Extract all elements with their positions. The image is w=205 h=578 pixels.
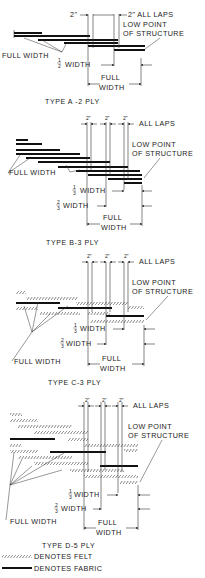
lap-label: 2"	[70, 10, 77, 19]
low-point-label: LOW POINT	[132, 140, 176, 149]
fraction-denominator: 3	[69, 494, 72, 500]
structure-label: OF STRUCTURE	[132, 149, 193, 158]
legend-fabric-label: DENOTES FABRIC	[34, 564, 102, 573]
two-thirds-width-label: WIDTH	[66, 339, 92, 348]
type-a-diagram: 2" 2" ALL LAPS LOW POINT OF STRUCTURE FU…	[2, 10, 184, 105]
all-laps-label: ALL LAPS	[133, 401, 169, 410]
full-width-label: FULL WIDTH	[9, 168, 56, 177]
full-width-label: FULL WIDTH	[14, 357, 61, 366]
lap-label: 2"	[105, 253, 110, 259]
legend-felt-label: DENOTES FELT	[34, 552, 93, 561]
fraction-denominator: 2	[58, 63, 61, 69]
fraction-denominator: 3	[74, 328, 77, 334]
type-b-title: TYPE B-3 PLY	[46, 239, 99, 246]
lap-label: 2"	[105, 115, 110, 121]
all-laps-label: 2" ALL LAPS	[128, 10, 173, 19]
lap-label: 2"	[85, 397, 90, 403]
full-width-dim-2: WIDTH	[96, 528, 122, 537]
lap-label: 2"	[124, 253, 129, 259]
lap-label: 2"	[86, 115, 91, 121]
lap-label: 2"	[102, 397, 107, 403]
full-width-dim-2: WIDTH	[100, 364, 126, 373]
low-point-label: LOW POINT	[123, 20, 167, 29]
full-width-label: FULL WIDTH	[2, 51, 49, 60]
third-width-label: WIDTH	[80, 324, 106, 333]
third-width-label: WIDTH	[74, 490, 100, 499]
low-point-label: LOW POINT	[132, 278, 176, 287]
full-width-dim-2: WIDTH	[101, 223, 127, 232]
fraction-denominator: 3	[73, 190, 76, 196]
full-width-dim-1: FULL	[102, 354, 121, 363]
third-width-label: WIDTH	[80, 186, 106, 195]
full-width-dim-1: FULL	[103, 213, 122, 222]
lap-label: 2"	[123, 115, 128, 121]
roofing-ply-diagram: 2" 2" ALL LAPS LOW POINT OF STRUCTURE FU…	[0, 0, 205, 578]
type-c-diagram: 2" 2" 2" ALL LAPS LOW POINT OF STRUCTURE…	[12, 253, 193, 386]
fraction-denominator: 3	[55, 508, 58, 514]
all-laps-label: ALL LAPS	[139, 119, 175, 128]
full-width-dim-2: WIDTH	[99, 83, 125, 92]
two-thirds-width-label: WIDTH	[63, 201, 89, 210]
type-c-title: TYPE C-3 PLY	[48, 379, 101, 386]
low-point-label: LOW POINT	[128, 422, 172, 431]
fraction-denominator: 3	[61, 343, 64, 349]
legend: DENOTES FELT DENOTES FABRIC	[2, 552, 102, 573]
half-width-label: WIDTH	[65, 60, 91, 69]
type-d-diagram: 2" 2" 2" ALL LAPS LOW POINT OF STRUCTURE…	[6, 397, 189, 549]
fraction-denominator: 3	[57, 205, 60, 211]
lap-label: 2"	[119, 397, 124, 403]
lap-label: 2"	[87, 253, 92, 259]
full-width-label: FULL WIDTH	[10, 517, 57, 526]
structure-label: OF STRUCTURE	[128, 431, 189, 440]
type-b-diagram: 2" 2" 2" ALL LAPS LOW POINT OF STRUCTURE…	[8, 115, 193, 246]
structure-label: OF STRUCTURE	[132, 287, 193, 296]
type-d-title: TYPE D-5 PLY	[42, 542, 95, 549]
full-width-dim-1: FULL	[101, 73, 120, 82]
two-thirds-width-label: WIDTH	[61, 504, 87, 513]
full-width-dim-1: FULL	[98, 518, 117, 527]
felt-swatch	[2, 555, 32, 558]
structure-label: OF STRUCTURE	[123, 29, 184, 38]
type-a-title: TYPE A -2 PLY	[45, 98, 100, 105]
all-laps-label: ALL LAPS	[139, 257, 175, 266]
